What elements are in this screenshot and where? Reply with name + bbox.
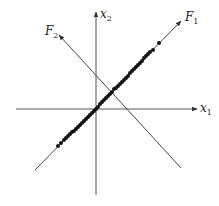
pca-diagram: x1 x2 F1 F2	[0, 0, 219, 206]
data-point	[157, 41, 161, 45]
diagram-canvas: x1 x2 F1 F2	[0, 0, 219, 206]
f2-label: F2	[44, 24, 58, 40]
x1-label: x1	[200, 101, 212, 117]
data-point	[59, 141, 63, 145]
data-point	[56, 144, 60, 148]
data-point	[151, 48, 155, 52]
x2-label: x2	[100, 7, 112, 23]
data-points	[56, 41, 161, 148]
f1-label: F1	[184, 10, 198, 26]
f2-component-line	[59, 35, 181, 168]
